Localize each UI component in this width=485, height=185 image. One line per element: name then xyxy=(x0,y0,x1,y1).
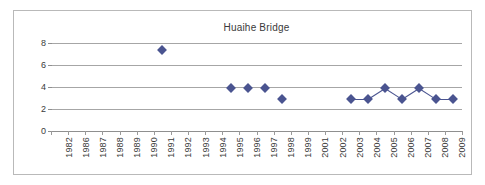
x-axis-tick-mark xyxy=(291,131,292,135)
x-axis-tick-label: 1990 xyxy=(149,137,159,158)
x-axis-tick-mark xyxy=(171,131,172,135)
y-axis-tick-mark xyxy=(48,87,52,88)
chart-title: Huaihe Bridge xyxy=(51,22,462,33)
x-axis-tick-label: 1998 xyxy=(286,137,296,158)
x-axis-tick-mark xyxy=(257,131,258,135)
x-axis-tick-label: 1988 xyxy=(115,137,125,158)
x-axis-tick-label: 2005 xyxy=(389,137,399,158)
x-axis-tick-label: 2008 xyxy=(440,137,450,158)
x-axis-tick-label: 1989 xyxy=(132,137,142,158)
x-axis-tick-mark xyxy=(359,131,360,135)
x-axis-tick-mark xyxy=(394,131,395,135)
y-axis-tick-label: 8 xyxy=(41,38,46,48)
x-axis-tick-mark xyxy=(428,131,429,135)
chart-screenshot: Huaihe Bridge 02468 19821986198719881989… xyxy=(0,0,485,185)
x-axis-tick-label: 1997 xyxy=(269,137,279,158)
x-axis-tick-label: 1986 xyxy=(81,137,91,158)
y-axis-tick-mark xyxy=(48,109,52,110)
x-axis-tick-label: 1982 xyxy=(64,137,74,158)
x-axis-tick-mark xyxy=(188,131,189,135)
x-axis-tick-mark xyxy=(411,131,412,135)
x-axis-tick-label: 1999 xyxy=(303,137,313,158)
x-axis-tick-label: 1995 xyxy=(235,137,245,158)
y-axis-tick-mark xyxy=(48,65,52,66)
x-axis-tick-label: 1991 xyxy=(166,137,176,158)
x-axis-tick-label: 2007 xyxy=(423,137,433,158)
plot-background xyxy=(51,43,462,131)
x-axis-tick-label: 1992 xyxy=(183,137,193,158)
x-axis-tick-mark xyxy=(342,131,343,135)
x-axis-tick-mark xyxy=(120,131,121,135)
x-axis-tick-mark xyxy=(51,131,52,135)
y-axis-tick-label: 0 xyxy=(41,126,46,136)
x-axis-tick-mark xyxy=(308,131,309,135)
x-axis-tick-mark xyxy=(325,131,326,135)
y-axis-tick-mark xyxy=(48,43,52,44)
x-axis-tick-mark xyxy=(102,131,103,135)
y-axis-tick-label: 2 xyxy=(41,104,46,114)
x-axis-tick-mark xyxy=(68,131,69,135)
x-axis-tick-label: 2003 xyxy=(355,137,365,158)
x-axis-tick-mark xyxy=(137,131,138,135)
x-axis-tick-mark xyxy=(376,131,377,135)
x-axis-tick-mark xyxy=(274,131,275,135)
x-axis-tick-label: 2001 xyxy=(320,137,330,158)
x-axis-tick-label: 1996 xyxy=(252,137,262,158)
y-axis-tick-label: 4 xyxy=(41,82,46,92)
x-axis-tick-mark xyxy=(222,131,223,135)
x-axis-tick-label: 2004 xyxy=(372,137,382,158)
x-axis-tick-label: 1993 xyxy=(201,137,211,158)
x-axis-tick-mark xyxy=(445,131,446,135)
x-axis-tick-mark xyxy=(462,131,463,135)
x-axis-tick-mark xyxy=(85,131,86,135)
x-axis-tick-label: 2009 xyxy=(457,137,467,158)
x-axis-tick-label: 2002 xyxy=(338,137,348,158)
plot-area xyxy=(51,43,462,131)
x-axis-tick-mark xyxy=(205,131,206,135)
x-axis-tick-mark xyxy=(154,131,155,135)
x-axis-tick-mark xyxy=(239,131,240,135)
y-axis-tick-labels: 02468 xyxy=(26,43,46,131)
y-axis-tick-label: 6 xyxy=(41,60,46,70)
x-axis-tick-labels: 1982198619871988198919901991199219931994… xyxy=(51,137,462,177)
x-axis-tick-label: 2006 xyxy=(406,137,416,158)
x-axis-tick-label: 1987 xyxy=(98,137,108,158)
x-axis-tick-label: 1994 xyxy=(218,137,228,158)
